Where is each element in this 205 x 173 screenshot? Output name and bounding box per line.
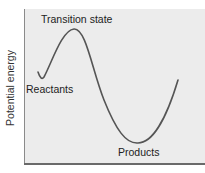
- y-axis-label: Potential energy: [5, 50, 16, 126]
- transition-state-label: Transition state: [41, 14, 112, 25]
- products-label: Products: [118, 147, 159, 158]
- energy-diagram: Transition state Reactants Products Pote…: [0, 0, 205, 173]
- reactants-label: Reactants: [26, 84, 73, 95]
